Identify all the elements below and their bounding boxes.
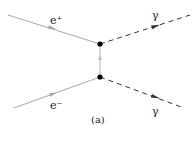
vertex-upper [97, 41, 102, 46]
photon-upper-line [100, 15, 190, 44]
photon-upper-label: γ [152, 9, 159, 22]
electron-label: e⁻ [50, 99, 63, 112]
positron-label: e⁺ [50, 14, 63, 27]
vertex-lower [97, 74, 102, 79]
photon-lower-line [100, 77, 184, 108]
photon-upper-arrow-icon [151, 25, 160, 30]
propagator-arrow-icon [98, 54, 102, 60]
photon-lower-label: γ [152, 105, 159, 118]
feynman-diagram: e⁺ e⁻ γ γ (a) [0, 0, 196, 148]
photon-lower-arrow-icon [151, 94, 160, 99]
diagram-caption: (a) [91, 114, 105, 125]
electron-arrow-icon [49, 93, 57, 97]
